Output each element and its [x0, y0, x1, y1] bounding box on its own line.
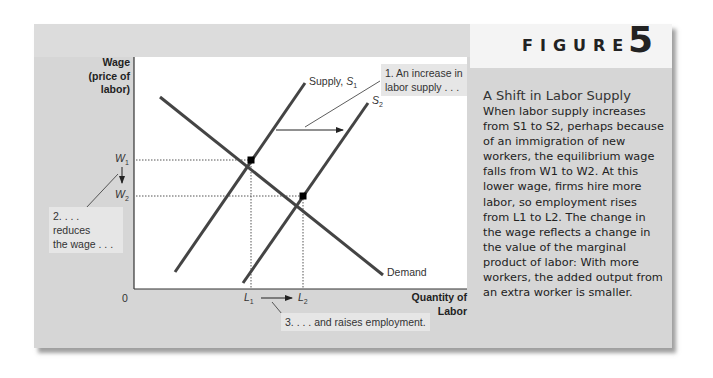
- y-axis-title-line2: (price of: [80, 70, 130, 84]
- figure-caption: A Shift in Labor Supply When labor suppl…: [483, 88, 665, 300]
- l1-tick-label: L1: [244, 291, 254, 305]
- note2-leader: [86, 174, 118, 208]
- caption-title: A Shift in Labor Supply: [483, 88, 665, 104]
- demand-label: Demand: [387, 266, 427, 278]
- y-axis-title-line1: Wage: [80, 56, 130, 70]
- w1-tick-label: W1: [115, 152, 129, 166]
- equilibrium-e2: [300, 193, 307, 200]
- supply-s1-line: [175, 83, 305, 272]
- note1-line2: labor supply . . .: [385, 80, 463, 94]
- note-raises-employment: 3. . . . and raises employment.: [281, 313, 430, 331]
- y-axis-title-line3: labor): [80, 83, 130, 97]
- equilibrium-e1: [248, 157, 255, 164]
- y-axis-title: Wage (price of labor): [80, 56, 130, 97]
- w2-tick-label: W2: [115, 188, 129, 202]
- note-increase-supply: 1. An increase in labor supply . . .: [381, 64, 467, 96]
- note-reduces-wage: 2. . . . reduces the wage . . .: [49, 207, 123, 253]
- x-axis-title-line1: Quantity of: [390, 291, 467, 305]
- demand-line: [160, 97, 383, 275]
- supply-s2-label: S2: [372, 94, 383, 108]
- note2-line2: the wage . . .: [53, 237, 119, 251]
- note2-line1: 2. . . . reduces: [53, 209, 119, 237]
- note1-line1: 1. An increase in: [385, 66, 463, 80]
- l2-tick-label: L2: [298, 291, 308, 305]
- supply-s1-label: Supply, S1: [309, 75, 357, 89]
- caption-body: When labor supply increases from S1 to S…: [483, 105, 664, 299]
- origin-label: 0: [122, 292, 128, 304]
